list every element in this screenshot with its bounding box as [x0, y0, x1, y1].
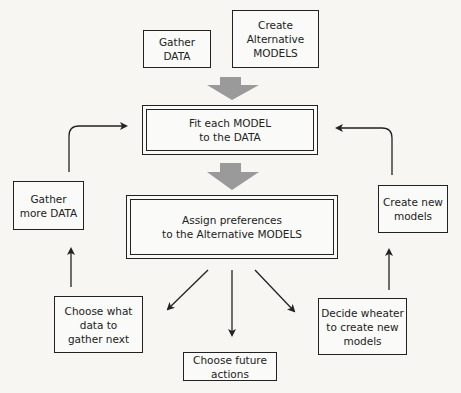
create-new-models-node: Create new models — [378, 185, 448, 233]
block-arrow-1 — [207, 77, 259, 100]
choose-data-node: Choose what data to gather next — [54, 296, 143, 353]
assign-preferences-label: Assign preferences to the Alternative MO… — [162, 213, 302, 241]
curved-arrow-right — [337, 128, 392, 175]
gather-data-node: Gather DATA — [143, 30, 211, 68]
curved-arrow-left — [69, 126, 126, 172]
arrow-to-decide — [255, 270, 294, 311]
create-models-node: Create Alternative MODELS — [232, 10, 319, 68]
block-arrow-2 — [207, 163, 259, 190]
fit-models-node: Fit each MODEL to the DATA — [142, 105, 318, 155]
arrow-to-choose-data — [168, 270, 208, 309]
choose-actions-node: Choose future actions — [183, 352, 277, 381]
gather-more-data-node: Gather more DATA — [13, 181, 84, 230]
fit-models-label: Fit each MODEL to the DATA — [189, 116, 271, 144]
decide-new-models-node: Decide wheater to create new models — [318, 298, 407, 355]
assign-preferences-node: Assign preferences to the Alternative MO… — [126, 195, 338, 259]
